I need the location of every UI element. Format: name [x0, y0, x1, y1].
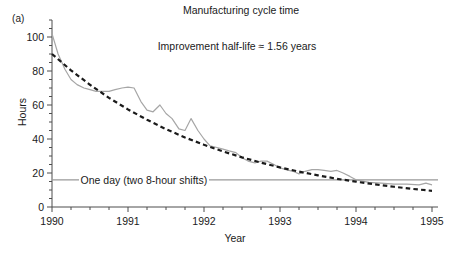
chart-subtitle: Improvement half-life ≈ 1.56 years [0, 40, 452, 52]
x-tick-label: 1993 [268, 215, 291, 227]
y-tick-label: 60 [32, 99, 44, 111]
chart-figure: (a) Manufacturing cycle time Improvement… [0, 0, 452, 257]
x-tick-label: 1992 [192, 215, 215, 227]
y-tick-label: 100 [26, 31, 44, 43]
y-tick-label: 20 [32, 167, 44, 179]
y-tick-label: 80 [32, 65, 44, 77]
x-tick-label: 1994 [344, 215, 367, 227]
threshold-label: One day (two 8-hour shifts) [79, 174, 210, 186]
plot-area [0, 0, 452, 257]
x-tick-label: 1995 [420, 215, 443, 227]
data-curve [52, 34, 432, 185]
x-axis-label: Year [0, 232, 452, 244]
y-tick-label: 0 [38, 201, 44, 213]
x-tick-label: 1991 [116, 215, 139, 227]
x-tick-label: 1990 [40, 215, 63, 227]
fit-curve [52, 54, 432, 191]
y-axis-label: Hours [16, 82, 28, 142]
y-tick-label: 40 [32, 133, 44, 145]
chart-title: Manufacturing cycle time [0, 4, 452, 16]
